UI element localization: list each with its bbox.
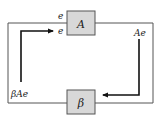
amplifier-label: A [76, 18, 85, 31]
input-label-top: e [58, 11, 63, 21]
feedback-block: β [67, 90, 95, 114]
feedback-loop-diagram: A β e e Ae βAe [0, 0, 162, 120]
feedback-signal-label: βAe [10, 89, 28, 99]
amplifier-block: A [67, 11, 95, 35]
output-label: Ae [133, 28, 146, 38]
feedback-label: β [77, 97, 84, 110]
feedback-to-input-arrow [21, 31, 53, 82]
input-label-arrow: e [58, 26, 63, 36]
output-to-feedback-arrow [103, 39, 139, 95]
